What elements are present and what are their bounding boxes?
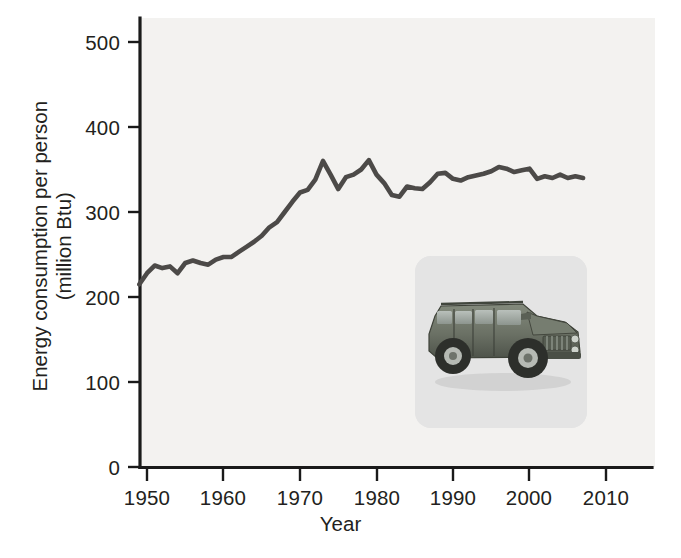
y-axis-title: Energy consumption per person (million B… — [28, 26, 76, 466]
x-axis-title: Year — [0, 512, 681, 536]
y-axis-ticks — [128, 42, 140, 467]
x-tick-label-2010: 2010 — [561, 486, 651, 510]
energy-consumption-chart: 500 400 300 200 100 0 1950 1960 1970 198… — [0, 0, 681, 558]
x-axis-ticks — [147, 468, 606, 482]
y-axis-title-line1: Energy consumption per person — [28, 26, 52, 466]
hummer-illustration — [415, 256, 587, 428]
y-axis-title-line2: (million Btu) — [52, 26, 76, 466]
hummer-suv-photo — [415, 256, 587, 428]
